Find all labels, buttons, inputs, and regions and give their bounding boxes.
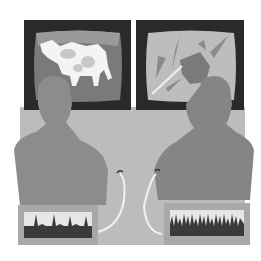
illustration bbox=[0, 0, 261, 261]
right-waveform-monitor bbox=[164, 203, 250, 245]
left-waveform-monitor bbox=[18, 205, 98, 245]
